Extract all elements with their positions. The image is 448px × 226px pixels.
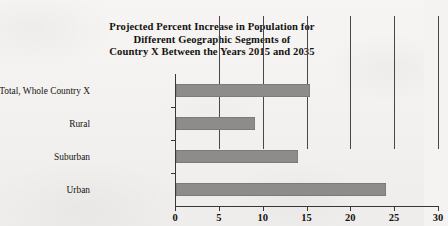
chart-title-line-1: Projected Percent Increase in Population…	[40, 21, 384, 34]
x-tick-0	[175, 207, 176, 211]
y-tick-2	[171, 140, 175, 141]
category-label-suburban: Suburban	[0, 152, 90, 162]
x-tick-label-25: 25	[379, 212, 409, 223]
gridline-15	[307, 16, 308, 149]
bar-total-whole-country-x	[176, 84, 310, 97]
y-tick-3	[171, 173, 175, 174]
gridline-20	[350, 16, 351, 149]
x-tick-label-30: 30	[423, 212, 448, 223]
gridline-10	[263, 16, 264, 149]
x-tick-label-10: 10	[248, 212, 278, 223]
x-tick-15	[307, 207, 308, 211]
x-tick-label-20: 20	[335, 212, 365, 223]
bar-chart-figure: Projected Percent Increase in Population…	[40, 16, 384, 210]
x-tick-10	[263, 207, 264, 211]
bar-urban	[176, 183, 386, 196]
x-tick-30	[438, 207, 439, 211]
x-tick-label-5: 5	[204, 212, 234, 223]
y-tick-1	[171, 107, 175, 108]
category-label-urban: Urban	[0, 185, 90, 195]
x-tick-5	[219, 207, 220, 211]
gridline-30	[438, 16, 439, 149]
x-tick-label-15: 15	[292, 212, 322, 223]
category-label-total-whole-country-x: Total, Whole Country X	[0, 86, 90, 96]
category-label-rural: Rural	[0, 119, 90, 129]
chart-title-line-3: Country X Between the Years 2015 and 203…	[40, 46, 384, 59]
bar-suburban	[176, 150, 298, 163]
gridline-25	[394, 16, 395, 149]
chart-title: Projected Percent Increase in Population…	[40, 21, 384, 59]
x-tick-label-0: 0	[160, 212, 190, 223]
x-tick-20	[350, 207, 351, 211]
bar-rural	[176, 117, 255, 130]
chart-title-line-2: Different Geographic Segments of	[40, 34, 384, 47]
x-tick-25	[394, 207, 395, 211]
